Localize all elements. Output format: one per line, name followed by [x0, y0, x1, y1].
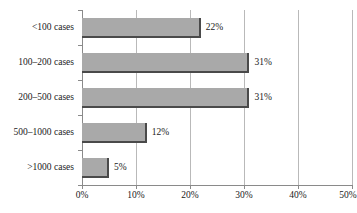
bar-1: [82, 53, 249, 73]
x-axis-line: [82, 185, 353, 186]
category-label-1: 100–200 cases: [18, 58, 74, 68]
plot-area: 22% 31% 31% 12% 5%: [82, 10, 352, 185]
category-axis: <100 cases 100–200 cases 200–500 cases 5…: [0, 0, 74, 213]
bar-2: [82, 88, 249, 108]
gridline-40: [298, 10, 299, 185]
x-axis-label-4: 40%: [289, 191, 306, 201]
x-axis-tick: [244, 185, 245, 189]
category-label-4: >1000 cases: [27, 163, 74, 173]
bar-value-0: 22%: [206, 23, 223, 33]
bar-value-2: 31%: [254, 93, 271, 103]
category-label-3: 500–1000 cases: [14, 128, 74, 138]
x-axis-label-0: 0%: [76, 191, 89, 201]
category-label-2: 200–500 cases: [18, 93, 74, 103]
gridline-50: [352, 10, 353, 185]
x-axis-tick: [352, 185, 353, 189]
x-axis-label-1: 10%: [127, 191, 144, 201]
bar-3: [82, 123, 147, 143]
bar-0: [82, 18, 201, 38]
bar-value-3: 12%: [152, 128, 169, 138]
x-axis-label-5: 50%: [339, 191, 356, 201]
category-label-0: <100 cases: [32, 23, 74, 33]
x-axis-tick: [298, 185, 299, 189]
bar-value-1: 31%: [254, 58, 271, 68]
x-axis-label-2: 20%: [181, 191, 198, 201]
x-axis-tick: [82, 185, 83, 189]
x-axis-tick: [136, 185, 137, 189]
bar-4: [82, 158, 109, 178]
x-axis-label-3: 30%: [235, 191, 252, 201]
bar-value-4: 5%: [114, 163, 127, 173]
x-axis-tick: [190, 185, 191, 189]
